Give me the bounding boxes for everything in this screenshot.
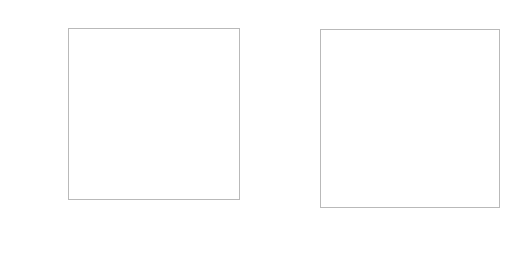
figure-container xyxy=(0,0,507,270)
zero-residual-line xyxy=(321,30,499,207)
right-plot-area xyxy=(320,29,500,208)
normal-fit-line xyxy=(69,29,239,199)
left-plot-area xyxy=(68,28,240,200)
residuals-vs-predicted-panel xyxy=(258,0,507,270)
normal-plot-panel xyxy=(0,0,258,270)
